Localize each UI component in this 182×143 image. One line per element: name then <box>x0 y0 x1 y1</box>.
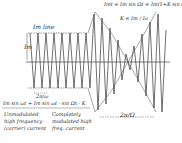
carrier-period-label: 2π/ω <box>36 94 48 99</box>
left-caption-2: high frequency <box>4 119 42 124</box>
carrier-wave <box>30 33 90 88</box>
right-caption-3: freq. current <box>52 126 85 131</box>
im-line-label: Im line <box>33 24 54 30</box>
left-caption-3: (carrier) current <box>4 126 46 131</box>
right-caption-2: modulated high <box>52 119 92 124</box>
im-marker-label: Im <box>24 44 32 50</box>
k-formula: K = Im / Io <box>120 16 148 21</box>
modulated-formula: Imt = Im sin Ωt = Im(1+K sin Ωt) <box>104 2 182 7</box>
modulated-wave <box>90 14 166 112</box>
bottom-formula: Im sin ωt + Im sin ωt · sin Ωt · K <box>3 101 86 106</box>
modulation-period-label: 2π/Ω <box>120 112 135 118</box>
right-caption-1: Completely <box>52 112 81 117</box>
left-caption-1: Unmodulated <box>4 112 38 117</box>
